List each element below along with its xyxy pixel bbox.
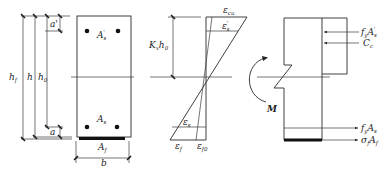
top-rebar-left xyxy=(85,29,90,34)
initial-strain-line xyxy=(196,17,212,140)
label-hf: hf xyxy=(9,72,18,84)
top-rebar-right xyxy=(116,29,121,34)
bottom-rebar-left xyxy=(85,125,90,130)
label-eps-s-prime: εs' xyxy=(222,20,230,32)
strain-profile-line xyxy=(170,17,247,140)
moment-arc xyxy=(249,58,266,102)
cross-section: As' As Af b hf h h0 a' xyxy=(9,14,134,168)
label-eps-cu: εcu xyxy=(223,5,235,16)
label-h: h xyxy=(27,72,33,82)
label-h0: h0 xyxy=(38,72,48,83)
label-Cc: Cc xyxy=(363,38,373,49)
label-kxh0: Kxh0 xyxy=(148,40,169,51)
label-eps-f0: εf0 xyxy=(197,141,208,153)
moment-arrowhead-icon xyxy=(262,56,268,61)
rc-section-diagram: As' As Af b hf h h0 a' xyxy=(0,0,389,171)
label-b: b xyxy=(101,158,107,168)
stress-block-outline xyxy=(284,18,347,74)
label-a: a xyxy=(50,127,55,137)
label-M: M xyxy=(266,104,278,114)
strain-diagram: Kxh0 εcu εs' εs εf εf0 xyxy=(148,5,247,153)
label-As-prime: As' xyxy=(96,29,107,41)
label-eps-s: εs xyxy=(183,117,191,128)
label-fyAs: fyAs xyxy=(360,123,377,135)
label-Af: Af xyxy=(97,142,108,154)
label-a-prime: a' xyxy=(50,19,58,29)
bottom-rebar-right xyxy=(115,125,120,130)
label-sigmafAf: σfAf xyxy=(361,135,379,147)
section-break-symbol xyxy=(274,65,292,140)
label-eps-f: εf xyxy=(175,141,183,153)
stress-diagram: M fyAs' Cc fyAs σfAf xyxy=(249,18,378,147)
label-As: As xyxy=(96,114,107,125)
